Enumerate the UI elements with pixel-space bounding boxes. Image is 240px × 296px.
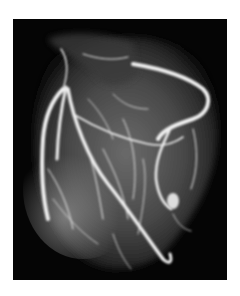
vessel-lad-tip	[163, 254, 171, 262]
contrast-blob	[167, 193, 179, 209]
angiogram-image: Coronary angiogram of a heart showing br…	[13, 19, 227, 280]
heart-illustration	[13, 19, 227, 280]
